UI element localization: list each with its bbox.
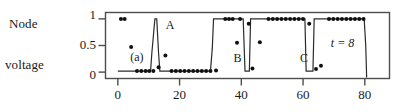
data-point: [170, 69, 174, 73]
data-point: [151, 69, 155, 73]
data-point: [135, 69, 139, 73]
data-point: [204, 69, 208, 73]
label-a: A: [166, 18, 175, 33]
data-point: [319, 64, 323, 68]
data-point: [157, 65, 161, 69]
x-tick-label-40: 40: [228, 87, 254, 103]
x-tick-label-20: 20: [167, 87, 193, 103]
data-point: [214, 69, 218, 73]
data-point: [123, 17, 127, 21]
data-point: [183, 69, 187, 73]
data-point: [174, 69, 178, 73]
data-point: [187, 69, 191, 73]
x-tick-label-80: 80: [352, 87, 378, 103]
data-point: [247, 22, 251, 26]
data-point: [275, 17, 279, 21]
data-point: [349, 17, 353, 21]
data-point: [327, 17, 331, 21]
data-point: [288, 17, 292, 21]
data-point: [292, 17, 296, 21]
data-point: [129, 45, 133, 49]
data-point: [178, 69, 182, 73]
data-point: [279, 17, 283, 21]
data-point: [235, 41, 239, 45]
data-point: [144, 69, 148, 73]
figure-panel-a: Node voltage 1 0.5 0 020406080 (a)ABCt =…: [0, 0, 415, 112]
data-point: [195, 69, 199, 73]
label-b: B: [234, 51, 242, 66]
data-point: [208, 69, 212, 73]
data-point: [119, 17, 123, 21]
data-point: [227, 17, 231, 21]
data-point: [344, 17, 348, 21]
data-point: [307, 22, 311, 26]
data-point: [271, 17, 275, 21]
data-point: [336, 17, 340, 21]
data-point: [301, 17, 305, 21]
data-point: [147, 69, 151, 73]
data-point: [258, 40, 262, 44]
data-point: [297, 17, 301, 21]
data-point: [340, 17, 344, 21]
waveform-line: [118, 19, 367, 78]
data-point: [139, 69, 143, 73]
data-point: [238, 17, 242, 21]
label-c: C: [300, 51, 308, 66]
data-point: [200, 69, 204, 73]
data-point: [314, 67, 318, 71]
data-point: [163, 54, 167, 58]
data-point: [223, 17, 227, 21]
panel-label: (a): [130, 50, 143, 65]
data-point: [284, 17, 288, 21]
data-point: [362, 17, 366, 21]
data-point: [191, 69, 195, 73]
data-point: [231, 17, 235, 21]
data-point: [357, 17, 361, 21]
x-tick-label-0: 0: [105, 87, 131, 103]
time-label: t = 8: [331, 36, 354, 51]
data-point: [353, 17, 357, 21]
data-point: [250, 66, 254, 70]
x-tick-label-60: 60: [290, 87, 316, 103]
data-point: [331, 17, 335, 21]
data-point: [266, 17, 270, 21]
